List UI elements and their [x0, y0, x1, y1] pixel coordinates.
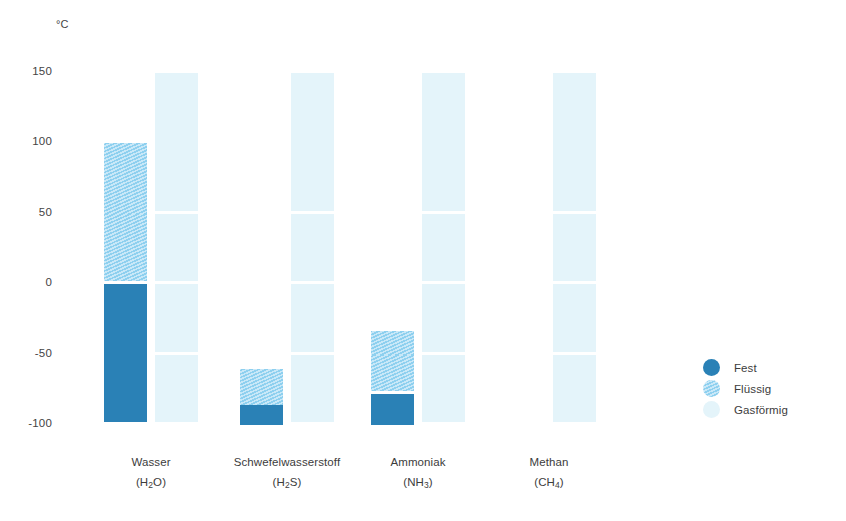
gas-column-4-segment: [553, 73, 596, 143]
gas-column-4-segment: [553, 284, 596, 351]
solid-column-2-segment: [240, 405, 283, 425]
legend-item-fluessig: Flüssig: [703, 378, 833, 399]
formula-prefix: (H: [273, 476, 285, 488]
solid-column-3: [371, 0, 414, 521]
legend-label: Fest: [734, 362, 757, 374]
formula-prefix: (H: [136, 476, 148, 488]
formula-suffix: ): [560, 476, 564, 488]
gas-column-3-segment: [422, 214, 465, 281]
gas-column-1-segment: [155, 284, 198, 351]
gas-column-4-segment: [553, 355, 596, 422]
legend-swatch-fluessig-icon: [703, 380, 720, 397]
solid-column-1: [104, 0, 147, 521]
x-category-label-4: Methan(CH4): [449, 452, 649, 495]
gas-column-3: [422, 0, 465, 521]
gas-column-2-segment: [291, 355, 334, 422]
formula-suffix: ): [429, 476, 433, 488]
gas-column-1-segment: [155, 355, 198, 422]
solid-column-1-segment: [104, 284, 147, 354]
gas-column-4-segment: [553, 214, 596, 281]
legend-item-fest: Fest: [703, 357, 833, 378]
x-category-name: Methan: [449, 452, 649, 472]
formula-prefix: (CH: [534, 476, 555, 488]
gas-column-3-segment: [422, 143, 465, 210]
gas-column-1-segment: [155, 73, 198, 143]
gas-column-1-segment: [155, 143, 198, 210]
plot-area: [0, 0, 846, 521]
gas-column-2-segment: [291, 214, 334, 281]
legend-item-gas: Gasförmig: [703, 399, 833, 420]
gas-column-3-segment: [422, 355, 465, 422]
gas-column-4-segment: [553, 143, 596, 210]
gas-column-2: [291, 0, 334, 521]
gas-column-4: [553, 0, 596, 521]
gas-column-1-segment: [155, 214, 198, 281]
gas-column-2-segment: [291, 73, 334, 143]
solid-column-3-segment: [371, 394, 414, 425]
x-category-formula: (CH4): [449, 472, 649, 495]
formula-prefix: (NH: [403, 476, 424, 488]
chart-legend: FestFlüssigGasförmig: [703, 357, 833, 420]
solid-column-2: [240, 0, 283, 521]
solid-column-1-segment: [104, 355, 147, 422]
gas-column-1: [155, 0, 198, 521]
gas-column-3-segment: [422, 73, 465, 143]
gas-column-2-segment: [291, 284, 334, 351]
formula-suffix: S): [290, 476, 302, 488]
gas-column-2-segment: [291, 143, 334, 210]
formula-suffix: O): [153, 476, 166, 488]
legend-swatch-gas-icon: [703, 401, 720, 418]
legend-label: Flüssig: [734, 383, 771, 395]
state-of-matter-chart: °C 150100500-50-100 Wasser(H2O)Schwefelw…: [0, 0, 846, 521]
gas-column-3-segment: [422, 284, 465, 351]
legend-swatch-fest-icon: [703, 359, 720, 376]
legend-label: Gasförmig: [734, 404, 788, 416]
